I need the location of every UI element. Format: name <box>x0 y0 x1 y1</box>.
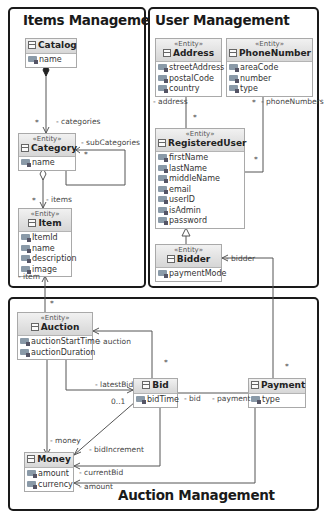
role-payment: - payment <box>212 394 251 403</box>
attribute-icon <box>158 186 167 192</box>
attribute: firstName <box>158 153 242 164</box>
class-phone-number[interactable]: «Entity»PhoneNumber areaCode number type <box>226 38 313 97</box>
attribute: type <box>229 84 310 95</box>
class-address[interactable]: «Entity»Address streetAddress postalCode… <box>155 38 222 97</box>
class-icon <box>28 41 36 49</box>
role-bidder: - bidder <box>226 254 255 263</box>
attribute: areaCode <box>229 63 310 74</box>
attribute-icon <box>158 154 167 160</box>
attribute: type <box>251 395 303 406</box>
class-icon <box>27 455 35 463</box>
mult-categories: * <box>35 118 39 127</box>
attribute-icon <box>21 266 30 272</box>
class-icon <box>142 381 150 389</box>
mult-auction: * <box>164 358 168 367</box>
attribute-icon <box>251 396 260 402</box>
attribute: lastName <box>158 164 242 175</box>
attribute: auctionStartTime <box>20 337 90 348</box>
attribute: ItemId <box>21 233 69 244</box>
stereotype: «Entity» <box>21 135 73 143</box>
attribute: description <box>21 254 69 265</box>
role-bid: - bid <box>184 394 201 403</box>
class-payment[interactable]: Payment type <box>248 378 306 408</box>
attribute: auctionDuration <box>20 348 90 359</box>
role-money: - money <box>50 436 81 445</box>
class-bid[interactable]: Bid bidTime <box>133 378 178 408</box>
attribute-icon <box>229 75 238 81</box>
role-bid-increment: - bidIncrement <box>89 445 144 454</box>
class-name: Money <box>37 454 71 464</box>
class-bidder[interactable]: «Entity»Bidder paymentMode <box>155 244 222 282</box>
attribute-icon <box>158 207 167 213</box>
attribute-icon <box>28 56 37 62</box>
attribute: amount <box>27 469 71 480</box>
attribute-icon <box>158 196 167 202</box>
attribute-icon <box>158 175 167 181</box>
attribute-icon <box>158 64 167 70</box>
attribute: isAdmin <box>158 206 242 217</box>
mult-items: * <box>32 196 36 205</box>
stereotype: «Entity» <box>20 314 90 322</box>
class-name: Catalog <box>38 40 77 50</box>
class-auction[interactable]: «Entity»Auction auctionStartTime auction… <box>17 312 93 360</box>
role-categories: - categories <box>56 117 100 126</box>
attribute-icon <box>20 338 29 344</box>
class-name: PhoneNumber <box>239 48 311 58</box>
attribute: postalCode <box>158 74 219 85</box>
class-icon <box>167 255 175 263</box>
class-icon <box>21 144 29 152</box>
class-name: Bidder <box>177 254 210 264</box>
attribute: name <box>21 244 69 255</box>
class-name: Item <box>38 218 61 228</box>
role-amount: - amount <box>79 482 113 491</box>
mult-registered-user: * <box>254 155 258 164</box>
role-phone-numbers: - phoneNumbers <box>261 97 324 106</box>
attribute: email <box>158 185 242 196</box>
role-item: - item <box>18 272 40 281</box>
attribute-icon <box>158 165 167 171</box>
class-money[interactable]: Money amount currency <box>24 452 74 492</box>
role-auction: - auction <box>98 337 131 346</box>
mult-latest-bid: 0..1 <box>111 397 125 406</box>
class-icon <box>31 323 39 331</box>
attribute-icon <box>158 75 167 81</box>
class-icon <box>158 139 166 147</box>
attribute: bidTime <box>136 395 175 406</box>
attribute-icon <box>27 470 36 476</box>
attribute: streetAddress <box>158 63 219 74</box>
attribute-icon <box>158 270 167 276</box>
class-category[interactable]: «Entity»Category name <box>18 133 76 171</box>
attribute-icon <box>27 481 36 487</box>
class-name: Payment <box>261 380 305 390</box>
mult-phone-numbers: * <box>252 98 256 107</box>
role-subcategories: - subCategories <box>81 138 140 147</box>
role-items: - items <box>46 195 72 204</box>
class-icon <box>251 381 259 389</box>
stereotype: «Entity» <box>158 246 219 254</box>
attribute-icon <box>21 234 30 240</box>
class-name: Category <box>31 143 77 153</box>
attribute: password <box>158 216 242 227</box>
attribute: number <box>229 74 310 85</box>
attribute-icon <box>21 255 30 261</box>
attribute-icon <box>21 159 30 165</box>
mult-item: * <box>50 299 54 308</box>
stereotype: «Entity» <box>158 130 242 138</box>
attribute-icon <box>229 85 238 91</box>
attribute-icon <box>21 245 30 251</box>
attribute-icon <box>229 64 238 70</box>
class-item[interactable]: «Entity»Item ItemId name description ima… <box>18 208 72 277</box>
mult-subcategories: * <box>84 150 88 159</box>
class-name: Bid <box>152 380 168 390</box>
attribute-icon <box>158 85 167 91</box>
class-registered-user[interactable]: «Entity»RegisteredUser firstName lastNam… <box>155 128 245 229</box>
class-icon <box>229 49 237 57</box>
class-catalog[interactable]: Catalog name <box>25 38 77 68</box>
mult-payment: * <box>285 362 289 371</box>
role-current-bid: - currentBid <box>79 468 123 477</box>
class-icon <box>163 49 171 57</box>
stereotype: «Entity» <box>158 40 219 48</box>
attribute-icon <box>158 217 167 223</box>
role-address: - address <box>153 97 188 106</box>
attribute: country <box>158 84 219 95</box>
